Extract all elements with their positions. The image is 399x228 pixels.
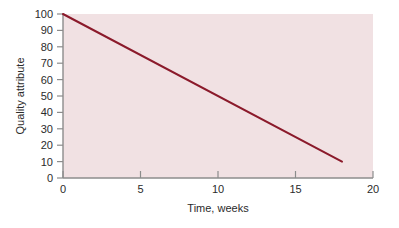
x-tick-label-5: 5 bbox=[137, 183, 143, 195]
y-tick-label-30: 30 bbox=[41, 123, 53, 135]
x-tick-label-0: 0 bbox=[60, 183, 66, 195]
y-tick-label-100: 100 bbox=[35, 8, 53, 20]
y-tick-label-10: 10 bbox=[41, 156, 53, 168]
y-tick-label-0: 0 bbox=[47, 172, 53, 184]
quality-attribute-line-chart: 100 90 80 70 60 50 40 30 20 10 0 0 5 10 … bbox=[0, 0, 399, 228]
y-tick-label-20: 20 bbox=[41, 139, 53, 151]
chart-figure: 100 90 80 70 60 50 40 30 20 10 0 0 5 10 … bbox=[0, 0, 399, 228]
y-tick-label-60: 60 bbox=[41, 74, 53, 86]
y-tick-label-50: 50 bbox=[41, 90, 53, 102]
y-axis-title: Quality attribute bbox=[14, 57, 26, 134]
y-tick-label-80: 80 bbox=[41, 41, 53, 53]
x-tick-label-10: 10 bbox=[212, 183, 224, 195]
y-tick-label-70: 70 bbox=[41, 57, 53, 69]
x-axis-title: Time, weeks bbox=[187, 202, 249, 214]
x-tick-label-15: 15 bbox=[289, 183, 301, 195]
x-tick-label-20: 20 bbox=[367, 183, 379, 195]
y-tick-label-90: 90 bbox=[41, 24, 53, 36]
y-axis-ticks bbox=[57, 14, 63, 178]
y-tick-label-40: 40 bbox=[41, 106, 53, 118]
